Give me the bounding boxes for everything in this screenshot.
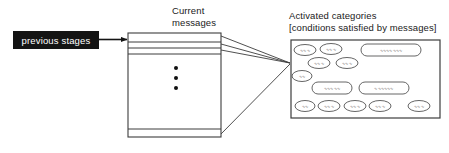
connector-line-bottom xyxy=(221,64,290,134)
category-label: ∿∿∿ xyxy=(314,61,324,66)
category-oval: ∿∿∿∿∿ xyxy=(312,82,352,94)
category-oval: ∿∿ xyxy=(292,71,312,82)
category-label: ∿∿∿∿∿ xyxy=(324,86,340,91)
category-label: ∿∿∿ xyxy=(350,104,360,109)
diagram-vector-layer: ∿∿∿ ∿∿∿ ∿∿∿∿∿∿∿ ∿∿∿ ∿∿∿ ∿∿ xyxy=(0,0,449,153)
connector-line-1 xyxy=(221,36,290,63)
category-label: ∿∿∿∿∿∿∿ xyxy=(380,48,402,53)
category-oval: ∿∿∿∿∿∿ xyxy=(359,82,409,94)
ellipsis-dot xyxy=(174,66,178,70)
category-oval: ∿∿∿ xyxy=(369,101,391,112)
category-label: ∿∿ xyxy=(299,74,305,79)
category-oval: ∿∿∿ xyxy=(318,101,340,112)
category-oval: ∿∿∿ xyxy=(320,44,342,55)
category-oval: ∿∿∿ xyxy=(408,101,430,112)
category-label: ∿∿∿ xyxy=(324,104,334,109)
category-label: ∿∿∿ xyxy=(414,104,424,109)
category-oval: ∿∿∿ xyxy=(294,45,316,56)
ellipsis-dot xyxy=(174,76,178,80)
diagram-canvas: Current messages Activated categories [c… xyxy=(0,0,449,153)
category-oval: ∿∿∿ xyxy=(308,58,330,69)
connector-line-2 xyxy=(221,44,290,63)
category-oval: ∿∿∿ xyxy=(344,101,366,112)
category-label: ∿∿∿∿∿∿ xyxy=(374,86,393,91)
category-oval: ∿∿ xyxy=(295,101,315,112)
ellipsis-dot xyxy=(174,86,178,90)
category-label: ∿∿∿ xyxy=(326,47,336,52)
category-label: ∿∿∿ xyxy=(300,48,310,53)
category-label: ∿∿ xyxy=(302,104,308,109)
vertical-ellipsis-icon xyxy=(170,66,182,90)
category-label: ∿∿∿ xyxy=(375,104,385,109)
category-label: ∿∿∿ xyxy=(342,61,352,66)
category-oval: ∿∿∿ xyxy=(336,58,358,69)
connector-line-3 xyxy=(221,50,290,63)
category-oval: ∿∿∿∿∿∿∿ xyxy=(361,44,421,56)
